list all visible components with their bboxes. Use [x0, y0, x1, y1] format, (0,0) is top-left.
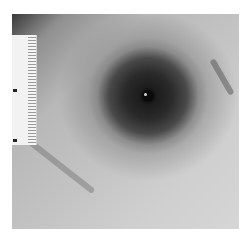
skin-fold [209, 58, 234, 96]
ruler-marker [13, 139, 17, 142]
skin-fold [29, 140, 96, 194]
central-wound [142, 90, 154, 102]
clinical-photograph [12, 14, 239, 229]
ruler-marker [13, 89, 17, 92]
measuring-ruler [12, 35, 37, 145]
